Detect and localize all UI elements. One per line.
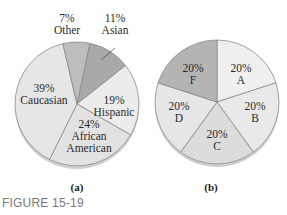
slice-category-label: C [213, 140, 221, 152]
slice-category-label: American [66, 142, 112, 154]
slice-category-label: African [71, 130, 106, 142]
pie-chart-b: 20%A20%B20%C20%D20%F [155, 40, 279, 167]
slice-category-label: A [237, 74, 246, 86]
slice-percent-label: 39% [33, 82, 55, 94]
pie-charts: 11%Asian19%Hispanic24%AfricanAmerican39%… [0, 0, 287, 215]
slice-percent-label: 7% [59, 12, 75, 24]
slice-percent-label: 19% [103, 94, 125, 106]
pie-chart-a: 11%Asian19%Hispanic24%AfricanAmerican39%… [15, 12, 139, 169]
slice-category-label: Asian [102, 24, 129, 36]
figure-caption: FIGURE 15-19 [2, 196, 84, 210]
slice-category-label: Hispanic [94, 106, 135, 119]
slice-category-label: Caucasian [20, 94, 68, 106]
slice-percent-label: 20% [168, 100, 190, 112]
slice-category-label: D [175, 112, 183, 124]
slice-percent-label: 20% [230, 62, 252, 74]
slice-percent-label: 20% [206, 128, 228, 140]
slice-category-label: Other [54, 24, 80, 36]
slice-category-label: B [251, 112, 259, 124]
slice-percent-label: 24% [78, 118, 100, 130]
chart-a-caption: (a) [71, 181, 84, 194]
slice-percent-label: 20% [244, 100, 266, 112]
slice-percent-label: 20% [182, 62, 204, 74]
chart-b-caption: (b) [204, 181, 218, 194]
slice-percent-label: 11% [105, 12, 126, 24]
slice-category-label: F [190, 74, 196, 86]
